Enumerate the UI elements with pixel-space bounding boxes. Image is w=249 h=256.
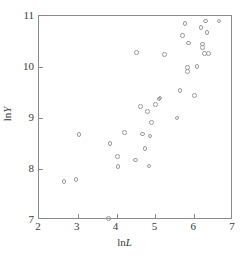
data-point xyxy=(147,164,152,169)
data-point xyxy=(206,51,211,56)
data-point xyxy=(186,41,191,46)
data-point xyxy=(74,177,79,182)
y-tick xyxy=(39,169,43,170)
y-tick-label: 9 xyxy=(16,112,34,123)
data-point xyxy=(153,102,158,107)
data-point xyxy=(203,19,208,24)
x-tick xyxy=(155,214,156,218)
data-point xyxy=(205,30,210,35)
data-point xyxy=(115,154,120,159)
x-tick-label: 4 xyxy=(106,221,126,232)
data-point xyxy=(143,146,148,151)
data-point xyxy=(180,33,185,38)
y-axis-title: lnY xyxy=(1,94,13,134)
data-point xyxy=(162,52,167,57)
data-point xyxy=(108,141,113,146)
data-point xyxy=(148,134,153,139)
data-point xyxy=(116,164,121,169)
y-tick-label: 11 xyxy=(16,10,34,21)
data-point xyxy=(62,179,67,184)
data-point xyxy=(185,69,190,74)
x-axis-title-variable: L xyxy=(126,236,132,248)
data-point xyxy=(199,25,204,30)
y-tick-label: 8 xyxy=(16,163,34,174)
y-tick xyxy=(39,67,43,68)
data-points-layer xyxy=(39,16,231,218)
data-point xyxy=(200,45,205,50)
x-tick-label: 5 xyxy=(144,221,164,232)
x-tick-label: 6 xyxy=(183,221,203,232)
y-tick-label: 10 xyxy=(16,61,34,72)
y-tick xyxy=(39,118,43,119)
data-point xyxy=(122,130,127,135)
data-point xyxy=(183,21,188,26)
scatter-plot-figure: 234567 7891011 lnL lnY xyxy=(0,0,249,256)
data-point xyxy=(77,132,82,137)
x-tick xyxy=(78,214,79,218)
x-tick xyxy=(117,214,118,218)
data-point xyxy=(145,109,150,114)
y-tick-label: 7 xyxy=(16,214,34,225)
data-point xyxy=(140,132,145,137)
data-point xyxy=(138,104,143,109)
data-point xyxy=(149,120,154,125)
y-axis-title-prefix: ln xyxy=(1,113,13,122)
data-point xyxy=(133,158,138,163)
x-axis-title-prefix: ln xyxy=(117,236,126,248)
x-tick xyxy=(194,214,195,218)
data-point xyxy=(134,50,139,55)
data-point xyxy=(195,64,200,69)
y-axis-title-variable: Y xyxy=(1,107,13,113)
x-tick-label: 7 xyxy=(222,221,242,232)
data-point xyxy=(178,88,183,93)
data-point xyxy=(175,116,180,121)
data-point xyxy=(192,93,197,98)
x-axis-title: lnL xyxy=(0,236,249,248)
plot-frame xyxy=(38,15,232,219)
data-point xyxy=(217,19,222,24)
data-point xyxy=(158,96,163,101)
x-tick-label: 3 xyxy=(67,221,87,232)
